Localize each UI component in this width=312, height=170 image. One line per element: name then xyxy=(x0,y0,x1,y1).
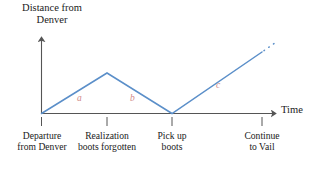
y-axis-title: Distance from Denver xyxy=(4,2,100,26)
y-axis-title-line1: Distance from xyxy=(22,2,82,13)
segment-label-c: c xyxy=(216,80,220,91)
distance-time-polyline xyxy=(42,52,263,114)
x-tick-label-continue-line2: to Vail xyxy=(224,142,300,153)
segment-label-b: b xyxy=(130,93,135,104)
segment-label-a: a xyxy=(77,93,82,104)
distance-time-graph-figure: Distance from Denver Time Departure from… xyxy=(0,0,312,170)
x-tick-label-realization-line1: Realization xyxy=(85,130,129,141)
x-tick-label-pickup: Pick up boots xyxy=(136,131,208,152)
dotted-continuation xyxy=(264,42,277,51)
x-tick-label-pickup-line1: Pick up xyxy=(157,130,186,141)
x-axis-title: Time xyxy=(281,104,303,116)
x-tick-label-continue-line1: Continue xyxy=(244,130,279,141)
x-tick-label-continue: Continue to Vail xyxy=(224,131,300,152)
y-axis-title-line2: Denver xyxy=(4,14,100,26)
x-tick-label-pickup-line2: boots xyxy=(136,142,208,153)
x-tick-label-departure-line1: Departure xyxy=(23,130,61,141)
